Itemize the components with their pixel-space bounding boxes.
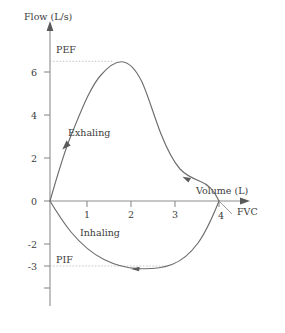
- x-axis-title: Volume (L): [195, 185, 248, 196]
- y-tick-label-6: 6: [31, 67, 37, 78]
- y-axis-arrowhead-icon: [47, 21, 54, 31]
- x-tick-label-1: 1: [84, 209, 90, 220]
- y-tick-label-0: 0: [31, 196, 37, 207]
- x-tick-label-2: 2: [128, 209, 134, 220]
- x-axis: [50, 198, 250, 205]
- chart-canvas: 6 4 2 0 -2 -3 Flow (L/s) 1 2 3 4 Volume …: [0, 0, 285, 333]
- pef-label: PEF: [56, 44, 76, 55]
- pif-label: PIF: [56, 254, 73, 265]
- exhaling-label: Exhaling: [68, 127, 110, 138]
- x-tick-label-3: 3: [172, 209, 178, 220]
- inhale-direction-marker: [131, 267, 140, 272]
- y-tick-label-neg2: -2: [28, 239, 37, 250]
- y-axis-ticks: [44, 72, 50, 288]
- flow-volume-loop-chart: 6 4 2 0 -2 -3 Flow (L/s) 1 2 3 4 Volume …: [0, 0, 285, 333]
- exhale-direction-marker-descending: [183, 177, 192, 183]
- inhaling-label: Inhaling: [80, 227, 120, 238]
- x-tick-label-4: 4: [218, 210, 224, 221]
- y-axis: [47, 21, 54, 306]
- inhaling-curve: [50, 201, 219, 269]
- x-axis-ticks: [87, 201, 219, 207]
- y-tick-label-2: 2: [31, 153, 37, 164]
- fvc-label: FVC: [237, 206, 258, 217]
- y-tick-label-neg3: -3: [28, 261, 37, 272]
- x-axis-arrowhead-icon: [240, 198, 250, 205]
- y-tick-label-4: 4: [31, 110, 37, 121]
- y-axis-title: Flow (L/s): [24, 11, 72, 22]
